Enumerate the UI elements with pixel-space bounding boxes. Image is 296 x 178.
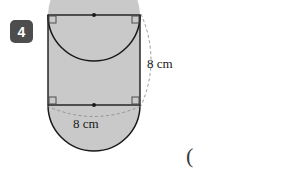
- dimension-label-right: 8 cm: [147, 57, 173, 70]
- geometry-figure-svg: [0, 0, 296, 178]
- midpoint-dot-bottom: [92, 103, 96, 107]
- geometry-figure: 8 cm 8 cm: [0, 0, 296, 178]
- dimension-label-bottom: 8 cm: [73, 117, 99, 130]
- answer-open-paren: (: [186, 145, 193, 167]
- worksheet-page: 4 8 cm 8 cm (: [0, 0, 296, 178]
- midpoint-dot-top: [92, 13, 96, 17]
